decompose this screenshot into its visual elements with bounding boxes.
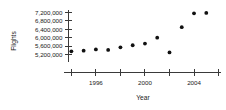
x-tick-label: 2004 [187,79,201,86]
y-tick-label: 5,200,000 [35,51,63,58]
x-axis-group: 199620002004 [64,69,221,86]
x-tick-label: 2000 [138,79,152,86]
data-point [94,48,98,52]
data-point [82,49,86,53]
data-point [106,48,110,52]
data-point [180,25,184,29]
scatter-chart: 5,200,0005,600,0006,000,0006,400,0006,80… [0,0,226,110]
y-tick-label: 6,400,000 [35,26,63,33]
y-tick-label: 7,200,000 [35,9,63,16]
data-point [131,43,135,47]
y-axis-group: 5,200,0005,600,0006,000,0006,400,0006,80… [35,9,72,62]
y-tick-label: 6,000,000 [35,34,63,41]
data-point [143,42,147,46]
data-point [204,11,208,15]
y-tick-label: 6,800,000 [35,17,63,24]
data-point [168,51,172,55]
chart-canvas: 5,200,0005,600,0006,000,0006,400,0006,80… [0,0,226,110]
data-point [69,49,73,53]
y-axis-title: Flights [10,31,18,51]
x-axis-title: Year [136,94,150,101]
data-point [192,11,196,15]
x-axis-tick-labels: 199620002004 [89,79,201,86]
y-tick-label: 5,600,000 [35,42,63,49]
x-tick-label: 1996 [89,79,103,86]
data-point [119,45,123,49]
y-axis-tick-labels: 5,200,0005,600,0006,000,0006,400,0006,80… [35,9,63,58]
data-points [69,11,208,54]
data-point [155,36,159,40]
